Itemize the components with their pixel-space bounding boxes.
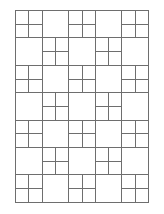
subdivided-cell xyxy=(43,148,69,175)
subdivided-cell xyxy=(69,175,96,203)
plain-cell xyxy=(43,66,69,93)
subdivided-cell xyxy=(16,175,43,203)
plain-cell xyxy=(69,38,96,66)
plain-cell xyxy=(96,121,122,148)
plain-cell xyxy=(43,175,69,203)
plain-cell xyxy=(122,148,149,175)
plain-cell xyxy=(69,93,96,121)
plain-cell xyxy=(16,93,43,121)
plain-cell xyxy=(96,66,122,93)
plain-cell xyxy=(43,11,69,38)
subdivided-cell xyxy=(69,121,96,148)
plain-cell xyxy=(16,38,43,66)
plain-cell xyxy=(122,38,149,66)
subdivided-cell xyxy=(16,121,43,148)
plain-cell xyxy=(16,148,43,175)
subdivided-cell xyxy=(122,66,149,93)
subdivided-cell xyxy=(122,11,149,38)
subdivided-cell xyxy=(122,121,149,148)
subdivided-cell xyxy=(96,93,122,121)
grid-pattern xyxy=(15,10,149,203)
plain-cell xyxy=(69,148,96,175)
subdivided-cell xyxy=(43,38,69,66)
plain-cell xyxy=(43,121,69,148)
subdivided-cell xyxy=(69,11,96,38)
subdivided-cell xyxy=(69,66,96,93)
subdivided-cell xyxy=(96,148,122,175)
subdivided-cell xyxy=(122,175,149,203)
plain-cell xyxy=(96,11,122,38)
plain-cell xyxy=(96,175,122,203)
subdivided-cell xyxy=(16,66,43,93)
plain-cell xyxy=(122,93,149,121)
subdivided-cell xyxy=(96,38,122,66)
subdivided-cell xyxy=(43,93,69,121)
subdivided-cell xyxy=(16,11,43,38)
